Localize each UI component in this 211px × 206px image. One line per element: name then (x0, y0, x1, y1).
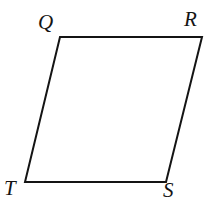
vertex-label-q: Q (38, 12, 53, 33)
parallelogram-drawing (0, 0, 211, 206)
geometry-figure-parallelogram-qrst: Q R S T (0, 0, 211, 206)
vertex-label-r: R (184, 9, 197, 30)
vertex-label-s: S (163, 180, 174, 201)
vertex-label-t: T (4, 178, 16, 199)
